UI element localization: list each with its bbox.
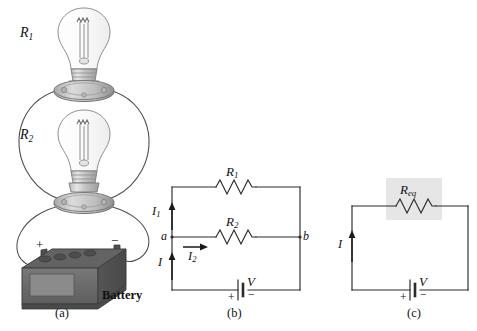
label-current-i-total-b: I: [158, 256, 162, 269]
label-current-i1-subscript: 1: [156, 209, 160, 219]
light-bulb-r1: [54, 8, 114, 102]
label-resistor-r2: R2: [226, 215, 238, 230]
label-current-i1: I1: [152, 205, 160, 219]
label-terminal-positive: +: [36, 238, 43, 251]
label-bulb-r1: R1: [20, 26, 33, 42]
label-resistor-r2-letter: R: [226, 214, 234, 229]
label-source-positive-b: +: [228, 292, 235, 304]
label-resistor-r1-subscript: 1: [234, 170, 238, 180]
label-battery: Battery: [102, 289, 142, 302]
label-bulb-r2-subscript: 2: [29, 134, 34, 144]
label-terminal-negative: −: [111, 234, 118, 247]
caption-panel-b: (b): [227, 306, 242, 321]
label-resistor-req-subscript: eq: [408, 188, 416, 198]
label-current-i-total-c: I: [338, 238, 342, 251]
caption-panel-a: (a): [55, 306, 69, 321]
label-resistor-r2-subscript: 2: [234, 220, 238, 230]
label-current-i2: I2: [188, 250, 196, 264]
label-source-voltage-b: V: [247, 275, 255, 288]
label-source-negative-c: −: [420, 289, 427, 301]
label-source-positive-c: +: [400, 292, 407, 304]
caption-panel-c: (c): [407, 306, 421, 321]
figure-canvas: [0, 0, 477, 331]
circuit-diagram-b: [170, 180, 301, 300]
label-source-negative-b: −: [248, 289, 255, 301]
label-current-i2-subscript: 2: [192, 254, 196, 264]
label-node-a: a: [161, 230, 167, 242]
current-arrows-b: [169, 202, 208, 280]
label-resistor-r1-letter: R: [226, 164, 234, 179]
figure-parallel-resistors: R1 R2 + − Battery (a) R1 R2 a b I1 I2 I …: [0, 0, 477, 331]
light-bulb-r2: [54, 110, 114, 214]
label-resistor-req-letter: R: [400, 182, 408, 197]
current-arrows-c: [349, 230, 356, 262]
label-resistor-r1: R1: [226, 165, 238, 180]
label-bulb-r1-letter: R: [20, 25, 29, 40]
label-node-b: b: [303, 230, 309, 242]
label-bulb-r2: R2: [20, 128, 33, 144]
label-bulb-r1-subscript: 1: [29, 32, 34, 42]
label-source-voltage-c: V: [419, 275, 427, 288]
label-bulb-r2-letter: R: [20, 127, 29, 142]
label-resistor-req: Req: [400, 183, 416, 198]
